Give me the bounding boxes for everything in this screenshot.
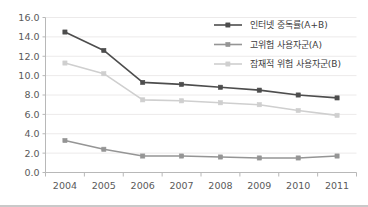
data-point-marker — [63, 30, 67, 34]
y-tick-label: 12.0 — [18, 51, 39, 62]
data-point-marker — [218, 101, 222, 105]
y-tick-label: 10.0 — [18, 70, 39, 81]
data-point-marker — [102, 48, 106, 52]
data-point-marker — [335, 96, 339, 100]
y-tick-label: 6.0 — [24, 109, 39, 120]
data-point-marker — [257, 103, 261, 107]
data-point-marker — [179, 154, 183, 158]
legend-label: 고위험 사용자군(A) — [250, 40, 322, 50]
data-point-marker — [296, 156, 300, 160]
legend-label: 인터넷 중독률(A+B) — [250, 20, 328, 30]
data-point-marker — [257, 156, 261, 160]
data-point-marker — [296, 93, 300, 97]
data-point-marker — [218, 155, 222, 159]
legend-marker-swatch — [226, 62, 230, 66]
data-point-marker — [218, 85, 222, 89]
data-point-marker — [141, 154, 145, 158]
data-point-marker — [179, 99, 183, 103]
data-point-marker — [63, 138, 67, 142]
data-point-marker — [141, 98, 145, 102]
x-tick-label: 2009 — [247, 180, 271, 191]
x-tick-label: 2011 — [325, 180, 349, 191]
y-tick-label: 14.0 — [18, 31, 39, 42]
chart-figure: 0.02.04.06.08.010.012.014.016.0 20042005… — [0, 0, 368, 207]
y-tick-label: 8.0 — [24, 89, 39, 100]
x-tick-label: 2006 — [131, 180, 155, 191]
data-point-marker — [296, 108, 300, 112]
y-tick-label: 4.0 — [24, 128, 39, 139]
x-tick-label: 2007 — [169, 180, 193, 191]
x-tick-label: 2010 — [286, 180, 310, 191]
legend-marker-swatch — [226, 23, 230, 27]
data-point-marker — [179, 82, 183, 86]
data-point-marker — [141, 80, 145, 84]
data-point-marker — [335, 154, 339, 158]
footer-rule — [0, 205, 368, 207]
data-point-marker — [257, 88, 261, 92]
line-chart: 0.02.04.06.08.010.012.014.016.0 20042005… — [0, 0, 368, 207]
y-tick-label: 2.0 — [24, 148, 39, 159]
data-point-marker — [102, 72, 106, 76]
y-tick-label: 0.0 — [24, 167, 39, 178]
x-tick-label: 2005 — [92, 180, 116, 191]
data-point-marker — [63, 61, 67, 65]
data-point-marker — [335, 113, 339, 117]
data-point-marker — [102, 147, 106, 151]
x-tick-label: 2004 — [53, 180, 77, 191]
legend-label: 잠재적 위험 사용자군(B) — [250, 58, 341, 69]
y-tick-label: 16.0 — [18, 12, 39, 23]
chart-background — [0, 0, 368, 207]
legend-marker-swatch — [226, 42, 230, 46]
x-tick-label: 2008 — [208, 180, 232, 191]
